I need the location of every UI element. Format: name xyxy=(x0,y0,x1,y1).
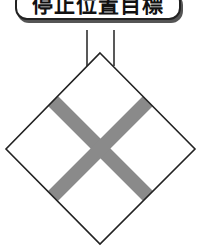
stop-position-sign xyxy=(0,0,206,249)
